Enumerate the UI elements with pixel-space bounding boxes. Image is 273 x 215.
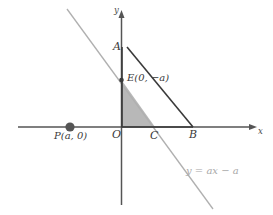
figure-canvas <box>0 0 273 215</box>
y-axis-arrow-icon <box>119 10 125 18</box>
line-y-equals-ax-minus-a <box>67 9 213 209</box>
line-equation-label: y = ax − a <box>186 166 239 176</box>
point-label-E: E(0, −a) <box>127 73 169 83</box>
point-marker-E <box>119 78 124 83</box>
point-label-B: B <box>189 129 197 140</box>
point-label-C: C <box>150 130 158 141</box>
coordinate-geometry-figure: A E(0, −a) O C B P(a, 0) x y y = ax − a <box>0 0 273 215</box>
point-label-P: P(a, 0) <box>54 131 87 141</box>
x-axis-arrow-icon <box>249 124 257 130</box>
shaded-triangle-EOC <box>122 80 156 127</box>
point-label-A: A <box>113 41 121 52</box>
y-axis-label: y <box>114 6 119 15</box>
x-axis-label: x <box>258 127 263 136</box>
point-label-O: O <box>112 129 121 140</box>
